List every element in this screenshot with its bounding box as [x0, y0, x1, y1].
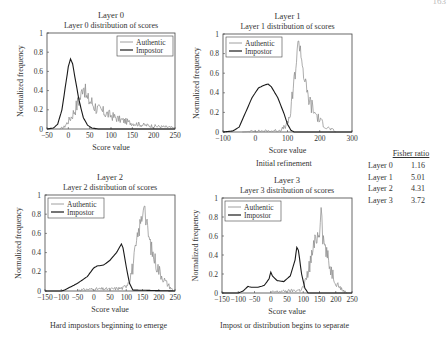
- page-number: 163: [433, 0, 447, 6]
- y-tick-label: 0.2: [210, 108, 220, 117]
- y-tick-label: 1: [39, 29, 43, 38]
- fisher-row-value: 3.72: [393, 195, 430, 207]
- x-tick-label: −50: [72, 293, 84, 302]
- chart-subtitle: Layer 1 distribution of scores: [240, 22, 334, 31]
- y-tick-label: 0.4: [32, 248, 42, 257]
- x-tick-label: 150: [127, 131, 139, 140]
- x-tick-label: 150: [314, 295, 326, 304]
- y-tick-label: 0.2: [32, 267, 42, 276]
- chart-subtitle: Layer 2 distribution of scores: [63, 183, 157, 192]
- x-tick-label: 300: [346, 134, 358, 143]
- x-tick-label: 250: [346, 295, 358, 304]
- legend-entry: Impostor: [136, 46, 164, 55]
- y-tick-label: 0: [39, 125, 43, 134]
- x-tick-label: 150: [137, 293, 149, 302]
- y-axis-label: Normalized frequency: [14, 207, 23, 279]
- chart-subtitle: Layer 3 distribution of scores: [240, 186, 334, 195]
- fisher-row-value: 4.31: [393, 183, 430, 195]
- y-tick-label: 1: [214, 194, 218, 203]
- chart-title: Layer 3: [274, 175, 300, 185]
- y-tick-label: 0: [215, 128, 219, 137]
- x-tick-label: 100: [282, 134, 294, 143]
- y-tick-label: 1: [215, 30, 219, 39]
- y-tick-label: 0.6: [34, 67, 44, 76]
- x-tick-label: 100: [121, 293, 133, 302]
- caption-layer-1: Initial refinement: [256, 159, 312, 168]
- x-tick-label: 50: [283, 295, 291, 304]
- chart-svg: Layer 1Layer 1 distribution of scores−10…: [176, 0, 366, 172]
- x-tick-label: 0: [66, 131, 70, 140]
- x-tick-label: 0: [92, 293, 96, 302]
- y-tick-label: 0.2: [34, 105, 44, 114]
- y-tick-label: 0.8: [210, 49, 220, 58]
- chart-legend: AuthenticImpostor: [225, 201, 281, 221]
- x-tick-label: 100: [298, 295, 310, 304]
- y-tick-label: 0.8: [32, 210, 42, 219]
- x-axis-label: Score value: [92, 143, 130, 152]
- y-tick-label: 0.6: [209, 232, 219, 241]
- x-tick-label: −100: [54, 293, 70, 302]
- fisher-row-value: 1.16: [393, 160, 430, 172]
- legend-entry: Impostor: [67, 208, 95, 217]
- fisher-row-label: Layer 2: [368, 183, 393, 195]
- chart-legend: AuthenticImpostor: [226, 37, 282, 57]
- fisher-row-label: Layer 3: [368, 195, 393, 207]
- caption-layer-3: Impost or distribution begins to separat…: [220, 321, 349, 330]
- chart-title: Layer 1: [274, 11, 300, 21]
- chart-svg: Layer 3Layer 3 distribution of scores−15…: [176, 164, 366, 344]
- y-tick-label: 1: [37, 191, 41, 200]
- fisher-ratio-table: Fisher ratio Layer 01.16 Layer 15.01 Lay…: [368, 148, 429, 206]
- legend-entry: Impostor: [244, 211, 272, 220]
- x-tick-label: 100: [105, 131, 117, 140]
- fisher-row-value: 5.01: [393, 172, 430, 184]
- impostor-series-line: [222, 247, 352, 293]
- fisher-row-label: Layer 1: [368, 172, 393, 184]
- x-tick-label: 50: [106, 293, 114, 302]
- y-tick-label: 0.8: [34, 48, 44, 57]
- y-tick-label: 0.2: [209, 270, 219, 279]
- chart-layer-3: Layer 3Layer 3 distribution of scores−15…: [176, 164, 366, 344]
- x-axis-label: Score value: [91, 305, 129, 314]
- authentic-series-line: [271, 208, 347, 294]
- y-tick-label: 0.4: [34, 86, 44, 95]
- authentic-series-line: [78, 206, 174, 291]
- x-tick-label: 200: [148, 131, 160, 140]
- x-tick-label: 200: [314, 134, 326, 143]
- y-tick-label: 0: [214, 289, 218, 298]
- legend-entry: Impostor: [245, 47, 273, 56]
- fisher-row-label: Layer 0: [368, 160, 393, 172]
- y-tick-label: 0.4: [210, 88, 220, 97]
- impostor-series-line: [223, 84, 352, 132]
- y-axis-label: Normalized frequency: [191, 210, 200, 282]
- x-tick-label: −50: [249, 295, 261, 304]
- x-tick-label: 0: [269, 295, 273, 304]
- chart-layer-1: Layer 1Layer 1 distribution of scores−10…: [176, 0, 366, 172]
- chart-legend: AuthenticImpostor: [117, 36, 173, 56]
- x-tick-label: 50: [86, 131, 94, 140]
- y-axis-label: Normalized frequency: [192, 47, 201, 119]
- x-tick-label: 0: [253, 134, 257, 143]
- y-tick-label: 0.6: [32, 229, 42, 238]
- chart-subtitle: Layer 0 distribution of scores: [64, 21, 158, 30]
- x-tick-label: 200: [153, 293, 165, 302]
- chart-title: Layer 2: [97, 172, 123, 182]
- impostor-series-line: [47, 59, 175, 129]
- chart-title: Layer 0: [98, 10, 124, 20]
- x-axis-label: Score value: [269, 146, 307, 155]
- y-axis-label: Normalized frequency: [16, 45, 25, 117]
- y-tick-label: 0.4: [209, 251, 219, 260]
- fisher-header: Fisher ratio: [393, 148, 430, 160]
- caption-layer-2: Hard impostors beginning to emerge: [50, 321, 167, 330]
- y-tick-label: 0: [37, 287, 41, 296]
- x-tick-label: 200: [330, 295, 342, 304]
- x-axis-label: Score value: [268, 307, 306, 316]
- y-tick-label: 0.6: [210, 69, 220, 78]
- chart-legend: AuthenticImpostor: [48, 198, 104, 218]
- x-tick-label: −100: [231, 295, 247, 304]
- y-tick-label: 0.8: [209, 213, 219, 222]
